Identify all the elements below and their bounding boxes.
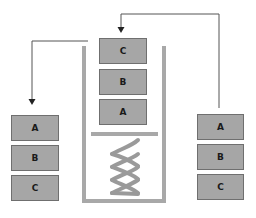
spring-icon <box>112 140 138 194</box>
left-box-c: C <box>11 175 59 201</box>
pop-arrow <box>29 41 89 105</box>
box-label: B <box>120 77 127 87</box>
right-box-a: A <box>197 114 244 140</box>
box-label: B <box>217 152 224 162</box>
right-box-b: B <box>197 144 244 170</box>
box-label: B <box>32 153 39 163</box>
left-box-b: B <box>11 145 59 171</box>
arrowhead-down-icon <box>29 99 36 105</box>
box-label: A <box>120 107 127 117</box>
container-left-wall <box>82 46 86 203</box>
center-box-b: B <box>99 69 147 95</box>
stack-diagram: C B A A B C A B C <box>0 0 256 218</box>
container-bottom <box>82 199 166 203</box>
container-right-wall <box>162 46 166 203</box>
box-label: C <box>120 46 127 56</box>
arrowhead-down-icon <box>118 27 125 33</box>
spring-plate <box>91 132 158 136</box>
box-label: C <box>32 183 39 193</box>
left-box-a: A <box>11 115 59 141</box>
box-label: C <box>217 182 224 192</box>
center-box-a: A <box>99 99 147 125</box>
right-box-c: C <box>197 174 244 200</box>
box-label: A <box>217 122 224 132</box>
box-label: A <box>32 123 39 133</box>
center-box-c: C <box>99 38 147 64</box>
